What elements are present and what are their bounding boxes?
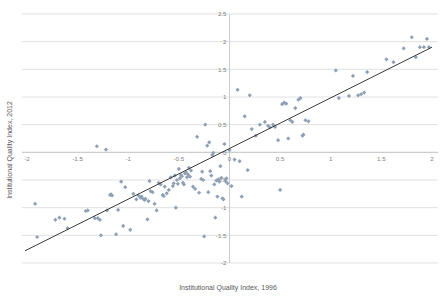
data-point bbox=[203, 123, 207, 127]
data-point bbox=[165, 191, 169, 195]
data-point bbox=[145, 217, 149, 221]
data-point bbox=[146, 199, 150, 203]
data-point bbox=[238, 159, 242, 163]
data-point bbox=[163, 185, 167, 189]
data-point bbox=[167, 188, 171, 192]
data-point bbox=[95, 144, 99, 148]
x-tick-label: -1 bbox=[125, 155, 131, 162]
data-point bbox=[99, 233, 103, 237]
y-tick-label: 1.5 bbox=[218, 66, 227, 73]
data-point bbox=[422, 45, 426, 49]
data-points bbox=[33, 35, 431, 239]
data-point bbox=[276, 138, 280, 142]
x-tick-label: 0.5 bbox=[276, 155, 285, 162]
y-tick-label: 0.5 bbox=[218, 121, 227, 128]
y-tick-label: 2 bbox=[223, 38, 227, 45]
trend-line bbox=[25, 47, 432, 251]
data-point bbox=[207, 140, 211, 144]
x-tick-label: -0.5 bbox=[174, 155, 185, 162]
data-point bbox=[243, 114, 247, 118]
data-point bbox=[53, 218, 57, 222]
data-point bbox=[391, 60, 395, 64]
y-tick-label: -2 bbox=[221, 259, 227, 266]
y-tick-labels: -2-1.5-1-0.50.511.522.50 bbox=[216, 10, 227, 266]
data-point bbox=[425, 37, 429, 41]
y-tick-label: -1.5 bbox=[216, 232, 227, 239]
data-point bbox=[351, 74, 355, 78]
data-point bbox=[250, 127, 254, 131]
chart-canvas: -2-1.5-1-0.50.511.522.50 -2-1.5-1-0.500.… bbox=[0, 0, 445, 298]
axes bbox=[22, 14, 438, 263]
data-point bbox=[174, 206, 178, 210]
data-point bbox=[155, 208, 159, 212]
data-point bbox=[236, 88, 240, 92]
data-point bbox=[246, 168, 250, 172]
data-point bbox=[240, 195, 244, 199]
data-point bbox=[121, 224, 125, 228]
x-tick-label: 1.5 bbox=[377, 155, 386, 162]
data-point bbox=[57, 216, 61, 220]
data-point bbox=[384, 57, 388, 61]
x-tick-label: 1 bbox=[329, 155, 333, 162]
data-point bbox=[177, 167, 181, 171]
data-point bbox=[222, 142, 226, 146]
data-point bbox=[209, 173, 213, 177]
data-point bbox=[176, 182, 180, 186]
data-point bbox=[218, 164, 222, 168]
data-point bbox=[104, 147, 108, 151]
y-axis-title: Institutional Quality Index, 2012 bbox=[6, 101, 14, 199]
data-point bbox=[195, 135, 199, 139]
scatter-chart: -2-1.5-1-0.50.511.522.50 -2-1.5-1-0.500.… bbox=[0, 0, 445, 298]
data-point bbox=[33, 202, 37, 206]
data-point bbox=[123, 185, 127, 189]
x-tick-label: -1.5 bbox=[72, 155, 83, 162]
data-point bbox=[206, 190, 210, 194]
gridlines bbox=[22, 14, 438, 263]
data-point bbox=[229, 184, 233, 188]
x-tick-label: 0 bbox=[228, 155, 232, 162]
data-point bbox=[365, 70, 369, 74]
data-point bbox=[215, 195, 219, 199]
data-point bbox=[152, 202, 156, 206]
y-tick-label: -1 bbox=[221, 204, 227, 211]
data-point bbox=[278, 188, 282, 192]
data-point bbox=[205, 144, 209, 148]
data-point bbox=[293, 106, 297, 110]
data-point bbox=[286, 136, 290, 140]
data-point bbox=[131, 192, 135, 196]
y-tick-label: 2.5 bbox=[218, 10, 227, 17]
x-tick-label: 2 bbox=[430, 155, 434, 162]
x-tick-label: -2 bbox=[24, 155, 30, 162]
data-point bbox=[197, 191, 201, 195]
data-point bbox=[410, 35, 414, 39]
x-tick-labels: -2-1.5-1-0.500.511.52 bbox=[24, 155, 434, 162]
data-point bbox=[116, 208, 120, 212]
y-tick-label: 1 bbox=[223, 93, 227, 100]
data-point bbox=[213, 216, 217, 220]
data-point bbox=[258, 123, 262, 127]
trend-line-path bbox=[25, 47, 432, 251]
data-point bbox=[418, 45, 422, 49]
data-point bbox=[128, 228, 132, 232]
data-point bbox=[402, 46, 406, 50]
data-point bbox=[134, 197, 138, 201]
data-point bbox=[208, 169, 212, 173]
data-point bbox=[263, 120, 267, 124]
x-axis-title: Institutional Quality Index, 1996 bbox=[179, 284, 277, 292]
data-point bbox=[232, 157, 236, 161]
data-point bbox=[200, 170, 204, 174]
data-point bbox=[62, 217, 66, 221]
